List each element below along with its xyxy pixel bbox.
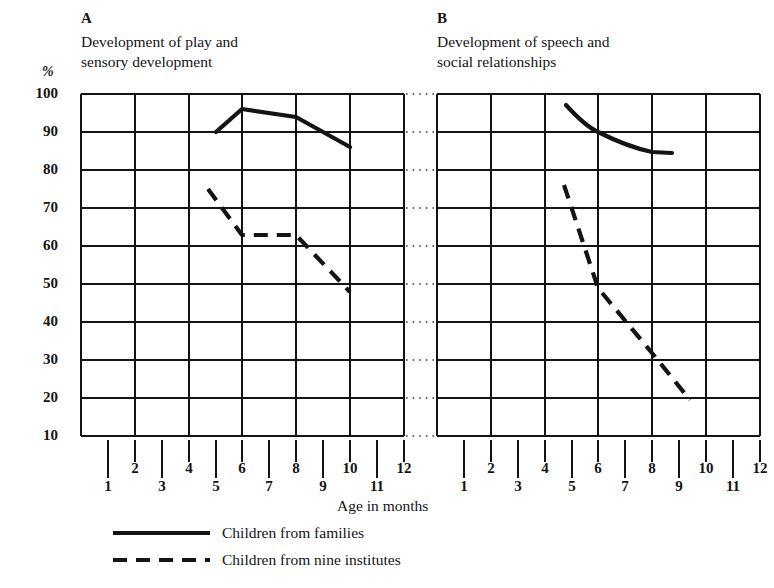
- x-tick-b-8: 8: [641, 460, 663, 477]
- gutter-dotted-gridlines: [406, 94, 435, 436]
- x-axis-caption: Age in months: [337, 497, 428, 515]
- x-tick-b-7: 7: [614, 478, 636, 495]
- series-a-institutes-line: [208, 189, 350, 292]
- x-tick-b-2: 2: [480, 460, 502, 477]
- x-tick-b-5: 5: [561, 478, 583, 495]
- x-tick-a-7: 7: [258, 478, 280, 495]
- x-tick-b-11: 11: [722, 478, 744, 495]
- x-tick-a-12: 12: [393, 460, 415, 477]
- x-tick-a-3: 3: [151, 478, 173, 495]
- x-tick-b-9: 9: [668, 478, 690, 495]
- x-tick-b-10: 10: [695, 460, 717, 477]
- x-tick-a-2: 2: [124, 460, 146, 477]
- x-tick-a-11: 11: [366, 478, 388, 495]
- series-a-families-line: [216, 109, 350, 147]
- x-tick-a-4: 4: [178, 460, 200, 477]
- x-tick-b-12: 12: [749, 460, 771, 477]
- x-tick-a-1: 1: [97, 478, 119, 495]
- x-tick-b-4: 4: [534, 460, 556, 477]
- x-tick-b-6: 6: [587, 460, 609, 477]
- x-tick-a-8: 8: [285, 460, 307, 477]
- legend-label-institutes: Children from nine institutes: [222, 551, 401, 569]
- x-tick-b-3: 3: [507, 478, 529, 495]
- legend-label-families: Children from families: [222, 524, 364, 542]
- x-tick-a-9: 9: [312, 478, 334, 495]
- x-tick-a-6: 6: [231, 460, 253, 477]
- series-b-institutes-line: [564, 185, 690, 400]
- x-tick-a-5: 5: [205, 478, 227, 495]
- x-tick-a-10: 10: [339, 460, 361, 477]
- series-b-families-line: [566, 105, 672, 153]
- figure-root: A Development of play and sensory develo…: [0, 0, 774, 588]
- x-tick-b-1: 1: [453, 478, 475, 495]
